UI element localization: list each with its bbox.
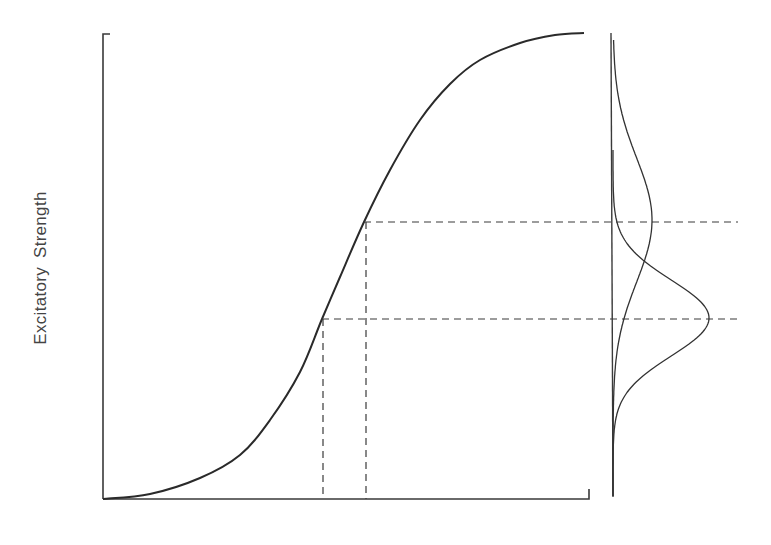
x-axis [103, 489, 589, 499]
sigmoid-curve [103, 33, 584, 499]
lower-distribution-curve [613, 150, 709, 496]
main-axes [103, 34, 589, 499]
chart-canvas [0, 0, 771, 545]
figure: Excitatory Strength [0, 0, 771, 545]
dashed-guides [322, 222, 742, 499]
y-axis [103, 34, 110, 499]
upper-distribution-curve [613, 40, 652, 496]
